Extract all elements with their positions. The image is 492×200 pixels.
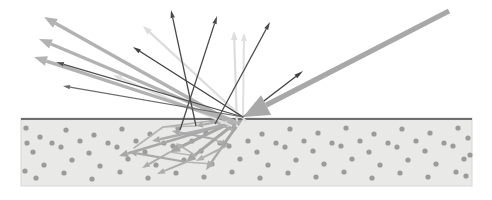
target-atom xyxy=(237,156,242,161)
target-atom xyxy=(422,148,427,153)
target-atom xyxy=(77,138,82,143)
target-atom xyxy=(413,138,418,143)
target-atom xyxy=(329,140,334,145)
target-atom xyxy=(301,138,306,143)
target-atom xyxy=(22,168,27,173)
target-atom xyxy=(467,152,472,157)
sputtering-diagram xyxy=(0,0,492,200)
target-atom xyxy=(341,169,346,174)
target-atom xyxy=(133,138,138,143)
target-atom xyxy=(287,126,292,131)
target-atom xyxy=(282,144,287,149)
target-atom xyxy=(97,163,102,168)
target-atom xyxy=(257,175,262,180)
target-atom xyxy=(343,125,348,130)
target-atom xyxy=(394,144,399,149)
target-atom xyxy=(61,170,66,175)
diagram-canvas xyxy=(0,0,492,200)
target-atom xyxy=(49,140,54,145)
target-atom xyxy=(63,127,68,132)
target-atom xyxy=(119,126,124,131)
target-atom xyxy=(201,174,206,179)
target-atom xyxy=(455,125,460,130)
target-atom xyxy=(89,176,94,181)
target-atom xyxy=(377,162,382,167)
target-atom xyxy=(385,140,390,145)
target-atom xyxy=(58,144,63,149)
target-atom xyxy=(33,175,38,180)
target-atom xyxy=(285,170,290,175)
target-atom xyxy=(117,169,122,174)
target-atom xyxy=(114,144,119,149)
target-atom xyxy=(399,126,404,131)
target-atom xyxy=(321,161,326,166)
target-atom xyxy=(366,149,371,154)
target-atom xyxy=(441,140,446,145)
target-atom xyxy=(273,140,278,145)
target-atom xyxy=(245,138,250,143)
target-atom xyxy=(173,170,178,175)
target-atom xyxy=(229,169,234,174)
target-atom xyxy=(24,140,29,145)
target-atom xyxy=(315,130,320,135)
target-atom xyxy=(91,132,96,137)
target-atom xyxy=(338,143,343,148)
target-atom xyxy=(30,149,35,154)
target-atom xyxy=(41,162,46,167)
target-atom xyxy=(453,169,458,174)
target-atom xyxy=(310,148,315,153)
target-atom xyxy=(461,156,466,161)
target-atom xyxy=(254,149,259,154)
target-atom xyxy=(349,156,354,161)
target-atom xyxy=(427,130,432,135)
target-atom xyxy=(37,134,42,139)
substrate-block xyxy=(21,118,473,186)
target-atom xyxy=(405,157,410,162)
target-atom xyxy=(371,131,376,136)
target-atom xyxy=(425,174,430,179)
target-atom xyxy=(313,174,318,179)
target-atom xyxy=(145,175,150,180)
target-atom xyxy=(125,156,130,161)
target-atom xyxy=(86,150,91,155)
target-atom xyxy=(450,143,455,148)
target-atom xyxy=(463,173,468,178)
target-atom xyxy=(265,162,270,167)
target-atom xyxy=(369,175,374,180)
target-atom xyxy=(23,125,28,130)
cascade-line-7 xyxy=(163,126,196,127)
target-atom xyxy=(293,157,298,162)
arrow-shaft xyxy=(243,41,244,117)
target-atom xyxy=(259,131,264,136)
target-atom xyxy=(357,138,362,143)
target-atom xyxy=(465,135,470,140)
target-atom xyxy=(397,170,402,175)
target-atom xyxy=(153,162,158,167)
target-atom xyxy=(69,157,74,162)
target-atom xyxy=(105,140,110,145)
target-atom xyxy=(433,161,438,166)
